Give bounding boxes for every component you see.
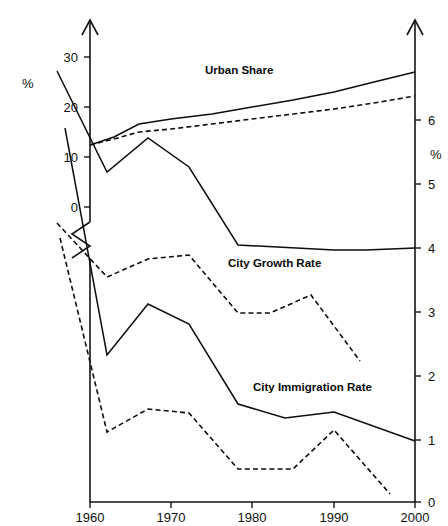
left-tick-label-10: 10 bbox=[64, 150, 78, 165]
right-tick-label-0: 0 bbox=[428, 495, 435, 510]
series-city-immigration-rate-solid bbox=[65, 128, 415, 441]
right-axis bbox=[407, 20, 423, 502]
right-axis-unit-label: % bbox=[430, 147, 442, 162]
bottom-tick-label-2000: 2000 bbox=[401, 510, 430, 525]
left-axis bbox=[72, 20, 98, 502]
left-axis-unit-label: % bbox=[22, 76, 34, 91]
line-chart: 30 20 10 0 % 6 5 4 3 2 1 0 % 1960 1970 1… bbox=[0, 0, 448, 526]
left-tick-label-20: 20 bbox=[64, 100, 78, 115]
series-city-growth-rate-solid bbox=[57, 71, 415, 250]
right-tick-label-5: 5 bbox=[428, 177, 435, 192]
series-urban-share-dashed bbox=[90, 96, 415, 145]
bottom-tick-label-1990: 1990 bbox=[320, 510, 349, 525]
left-tick-label-0: 0 bbox=[71, 200, 78, 215]
left-tick-label-30: 30 bbox=[64, 50, 78, 65]
series-urban-share-solid bbox=[90, 72, 415, 145]
right-tick-label-6: 6 bbox=[428, 113, 435, 128]
series-city-growth-rate-dashed bbox=[57, 223, 360, 361]
chart-page: 30 20 10 0 % 6 5 4 3 2 1 0 % 1960 1970 1… bbox=[0, 0, 448, 526]
series-label-urban-share: Urban Share bbox=[205, 64, 273, 76]
right-tick-label-4: 4 bbox=[428, 241, 435, 256]
right-tick-label-1: 1 bbox=[428, 433, 435, 448]
right-tick-label-2: 2 bbox=[428, 369, 435, 384]
series-label-city-immigration-rate: City Immigration Rate bbox=[253, 381, 372, 393]
bottom-axis bbox=[90, 502, 415, 508]
bottom-tick-label-1970: 1970 bbox=[157, 510, 186, 525]
bottom-tick-label-1980: 1980 bbox=[238, 510, 267, 525]
series-label-city-growth-rate: City Growth Rate bbox=[228, 257, 321, 269]
bottom-tick-label-1960: 1960 bbox=[76, 510, 105, 525]
right-tick-label-3: 3 bbox=[428, 305, 435, 320]
